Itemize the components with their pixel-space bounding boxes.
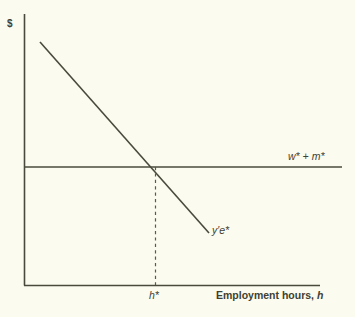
x-tick-label-h-star: h* xyxy=(149,290,159,301)
marginal-product-line xyxy=(40,42,209,233)
wage-line-label: w* + m* xyxy=(288,151,324,162)
x-axis-label-variable: h xyxy=(317,289,323,301)
y-axis-label: $ xyxy=(7,19,13,29)
x-axis-label: Employment hours, h xyxy=(216,290,323,301)
economics-diagram-figure: $ w* + m* y′e* h* Employment hours, h xyxy=(0,0,355,317)
marginal-product-label: y′e* xyxy=(212,225,229,236)
x-axis-label-text: Employment hours, xyxy=(216,289,317,301)
